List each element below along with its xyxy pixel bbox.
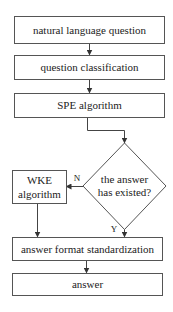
edge-label-no: N [74, 173, 81, 183]
node-label: SPE algorithm [57, 99, 122, 111]
arrow-n3-decision [88, 118, 125, 143]
edge-label-yes: Y [111, 224, 118, 234]
node-decision-answer-existed: the answer has existed? [83, 143, 166, 230]
decision-label-line1: the answer [101, 173, 149, 185]
wke-label-line2: algorithm [18, 188, 61, 200]
decision-label-line2: has existed? [98, 186, 152, 198]
node-label: answer [72, 278, 103, 290]
flowchart: natural language question question class… [0, 0, 173, 312]
node-spe-algorithm: SPE algorithm [15, 94, 165, 118]
node-label: natural language question [33, 24, 147, 36]
node-label: question classification [40, 61, 139, 73]
wke-label-line1: WKE [27, 174, 52, 186]
node-question-classification: question classification [15, 56, 165, 80]
node-answer-format-standardization: answer format standardization [13, 238, 163, 261]
node-answer: answer [13, 274, 163, 296]
node-natural-language-question: natural language question [15, 17, 165, 44]
node-wke-algorithm: WKE algorithm [13, 171, 67, 204]
node-label: answer format standardization [21, 243, 155, 255]
